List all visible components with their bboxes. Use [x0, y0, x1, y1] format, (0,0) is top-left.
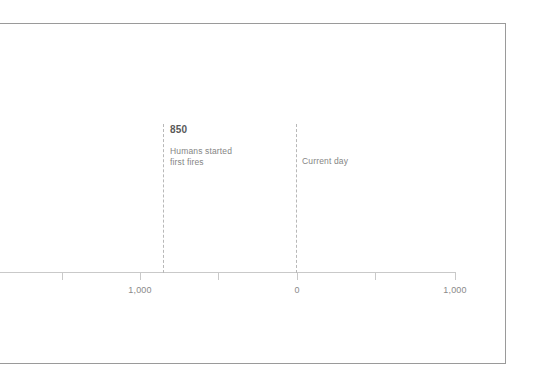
axis-tick-label: 0 [294, 285, 299, 295]
annotation-value-850: 850 [170, 124, 232, 136]
timeline-chart: 1,000 0 1,000 850 Humans started first f… [0, 23, 505, 363]
axis-tick-label: 1,000 [128, 285, 152, 295]
axis-tick [375, 272, 376, 280]
timeline-axis-line [0, 272, 456, 273]
axis-tick [218, 272, 219, 280]
axis-tick [455, 272, 456, 280]
annotation-marker-line-850 [163, 124, 164, 273]
annotation-description-line-1-850: Humans started [170, 146, 232, 157]
page-frame-right-border [505, 23, 506, 364]
page-frame-bottom-border [0, 363, 506, 364]
axis-tick-label: 1,000 [443, 285, 467, 295]
annotation-description-line-2-850: first fires [170, 157, 232, 168]
axis-tick [297, 272, 298, 280]
annotation-label-group-current-day: Current day [302, 124, 348, 167]
annotation-description-current-day: Current day [302, 156, 348, 167]
timeline-page: 1,000 0 1,000 850 Humans started first f… [0, 0, 534, 386]
axis-tick [140, 272, 141, 280]
annotation-label-group-850: 850 Humans started first fires [170, 124, 232, 168]
axis-tick [62, 272, 63, 280]
annotation-marker-line-current-day [296, 124, 297, 273]
